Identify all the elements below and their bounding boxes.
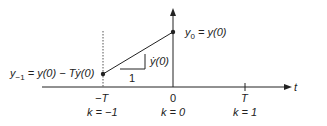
k-label-pos: k = 1	[233, 107, 257, 118]
point-y-minus-1	[101, 72, 105, 76]
k-label-zero: k = 0	[161, 107, 185, 118]
label-y0: y0 = y(0)	[185, 27, 226, 41]
k-label-neg: k = −1	[87, 107, 118, 118]
vertical-axis-arrow-icon	[170, 8, 176, 16]
time-axis-arrow-icon	[284, 84, 292, 90]
label-slope-rise: ẏ(0)	[150, 56, 169, 67]
label-y-minus-1: y−1 = y(0) − Tẏ(0)	[10, 68, 94, 82]
point-y0	[171, 30, 175, 34]
tick-label-zero: 0	[170, 93, 176, 104]
secant-line	[103, 32, 173, 74]
tick-label-neg-T: −T	[95, 93, 108, 104]
tick-label-pos-T: T	[241, 93, 248, 104]
label-t-axis: t	[294, 82, 297, 93]
label-slope-run: 1	[129, 73, 135, 84]
